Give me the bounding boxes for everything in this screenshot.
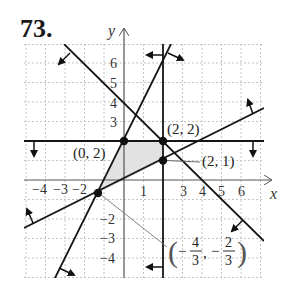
- y-axis-label: y: [106, 22, 116, 40]
- svg-text:4: 4: [110, 96, 117, 111]
- inequality-graph: x y −4 −3 −2 1 3 4 5 6 6 5 4 3 −2 −3 −4: [0, 0, 303, 302]
- svg-text:−4: −4: [100, 251, 115, 266]
- vertex-2-2: [159, 137, 167, 145]
- vertex-label-neg43-neg23: ( − 4 3 , − 2 3 ): [168, 235, 247, 269]
- svg-text:3: 3: [225, 253, 232, 268]
- vertex-label-2-2: (2, 2): [167, 121, 200, 138]
- svg-text:−3: −3: [100, 231, 115, 246]
- svg-text:−: −: [178, 243, 186, 259]
- svg-text:5: 5: [110, 76, 117, 91]
- arrow-down-right-icon: [168, 53, 183, 60]
- svg-text:2: 2: [225, 235, 232, 250]
- svg-text:−: −: [211, 243, 219, 259]
- svg-text:1: 1: [140, 184, 147, 199]
- svg-text:3: 3: [180, 184, 187, 199]
- svg-text:−4: −4: [32, 182, 47, 197]
- x-axis-label: x: [269, 185, 277, 202]
- arrow-down-right-icon: [59, 268, 74, 275]
- arrow-down-left-icon: [59, 53, 70, 64]
- svg-text:(: (: [168, 235, 178, 269]
- svg-text:3: 3: [110, 115, 117, 130]
- vertex-label-2-1: (2, 1): [202, 153, 235, 170]
- svg-text:−2: −2: [100, 212, 115, 227]
- vertex-label-0-2: (0, 2): [73, 145, 106, 162]
- svg-text:6: 6: [238, 184, 245, 199]
- svg-text:−3: −3: [53, 182, 68, 197]
- svg-text:−2: −2: [72, 182, 87, 197]
- svg-text:4: 4: [199, 184, 206, 199]
- vertex-2-1: [159, 156, 167, 164]
- svg-text:,: ,: [203, 245, 207, 261]
- svg-text:4: 4: [192, 235, 199, 250]
- svg-text:6: 6: [110, 56, 117, 71]
- svg-text:3: 3: [192, 253, 199, 268]
- vertex-neg43-neg23: [94, 189, 102, 197]
- arrow-up-left-icon: [27, 209, 33, 223]
- svg-text:): ): [237, 235, 247, 269]
- vertex-0-2: [120, 137, 128, 145]
